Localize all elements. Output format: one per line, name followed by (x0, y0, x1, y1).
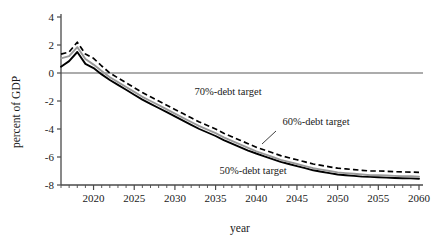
x-tick-labels: 202020252030203520402045205020552060 (83, 192, 431, 204)
y-tick-label: -4 (45, 123, 55, 135)
y-tick-labels: 420-2-4-6-8 (45, 11, 55, 191)
y-tick-label: -6 (45, 151, 55, 163)
x-tick-label: 2060 (408, 192, 431, 204)
series-line-70-debt-target (61, 42, 419, 172)
y-tick-label: 0 (49, 67, 55, 79)
debt-target-line-chart: 420-2-4-6-8 2020202520302035204020452050… (0, 0, 435, 237)
series-line-60-debt-target (61, 47, 419, 177)
x-tick-label: 2055 (367, 192, 390, 204)
annotation-label: 50%-debt target (219, 165, 286, 176)
x-tick-label: 2030 (164, 192, 187, 204)
series-annotations: 70%-debt target60%-debt target50%-debt t… (194, 86, 349, 176)
y-tick-label: -8 (45, 179, 55, 191)
x-tick-label: 2035 (205, 192, 228, 204)
annotation-label: 60%-debt target (282, 116, 349, 127)
x-tick-label: 2040 (245, 192, 268, 204)
annotation-label: 70%-debt target (194, 86, 261, 97)
x-axis-title: year (230, 222, 250, 235)
x-tick-label: 2045 (286, 192, 309, 204)
leader-line (262, 131, 276, 144)
x-tick-label: 2025 (123, 192, 146, 204)
series-line-50-debt-target (61, 52, 419, 179)
y-tick-label: 4 (49, 11, 55, 23)
chart-figure: 420-2-4-6-8 2020202520302035204020452050… (0, 0, 435, 237)
y-tick-label: 2 (49, 39, 55, 51)
x-axis-ticks (61, 185, 419, 190)
annotation-leader-lines (262, 131, 276, 144)
y-tick-label: -2 (45, 95, 54, 107)
x-tick-label: 2050 (327, 192, 350, 204)
y-axis-title: percent of GDP (10, 76, 23, 148)
x-tick-label: 2020 (83, 192, 106, 204)
series-group (61, 42, 419, 179)
